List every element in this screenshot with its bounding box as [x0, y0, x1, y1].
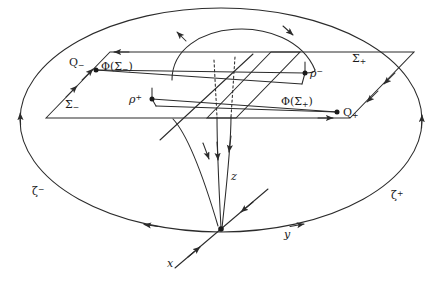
label-axis-z: z: [231, 171, 237, 182]
sigma-minus-edge-arrow-2: [82, 69, 93, 80]
invariant-manifold-ellipse: [20, 8, 422, 232]
label-sigma-minus: Σ−: [65, 99, 79, 112]
sigma-minus-edge-arrow-1: [66, 86, 77, 97]
z-funnel-curves: [173, 117, 231, 228]
q-minus-dot: [94, 68, 99, 73]
label-zeta-plus: ζ+: [391, 190, 403, 201]
label-rho-minus: ρ−: [310, 68, 323, 79]
label-phi-sigma-plus: Φ(Σ+): [281, 96, 313, 109]
origin-dot: [218, 226, 224, 232]
label-axis-x: x: [167, 258, 173, 269]
label-rho-plus: ρ+: [129, 94, 142, 105]
sigma-plus-edge-arrow-1: [384, 73, 395, 84]
x-axis-far-arrow-icon: [241, 202, 253, 212]
label-zeta-minus: ζ−: [32, 186, 44, 197]
rho-minus-dot: [303, 71, 308, 76]
label-phi-sigma-minus: Φ(Σ−): [101, 61, 133, 74]
label-q-plus: Q+: [343, 107, 358, 120]
diagram-svg: [0, 0, 443, 284]
q-plus-dot: [335, 110, 340, 115]
label-q-minus: Q−: [69, 57, 84, 70]
sigma-plus-edge-arrow-2: [367, 91, 378, 102]
top-arc-left-arrow-icon: [177, 32, 186, 41]
diagram-canvas: Q− Φ(Σ−) Σ− ρ+ ρ− Σ+ Φ(Σ+) Q+ ζ− ζ+ z y …: [0, 0, 443, 284]
label-sigma-plus: Σ+: [352, 53, 366, 66]
z-funnel-arrow-1: [203, 143, 209, 159]
label-axis-y: y: [284, 229, 290, 240]
rho-plus-dot: [150, 97, 155, 102]
x-axis-arrow-icon: [188, 247, 200, 257]
top-arc-right-arrow-icon: [283, 26, 293, 35]
